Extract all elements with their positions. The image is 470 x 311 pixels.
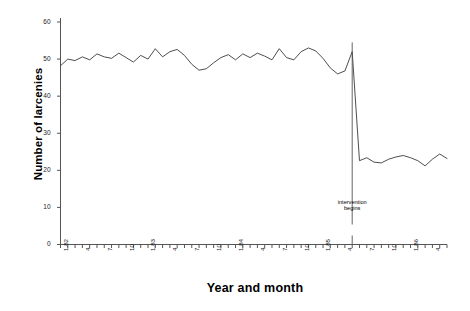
x-tick-label: 1.86: [413, 238, 419, 250]
x-tick-label: 10: [216, 244, 222, 251]
intervention-annotation: intervention begins: [312, 199, 392, 213]
x-axis-title: Year and month: [60, 281, 450, 295]
x-tick-label: 4: [347, 247, 353, 250]
plot-area: [0, 0, 470, 311]
x-tick-label: 10: [391, 244, 397, 251]
y-tick-label: 20: [25, 167, 51, 174]
x-tick-label: 7: [369, 247, 375, 250]
data-series: [61, 48, 448, 166]
intervention-label-line1: intervention: [312, 199, 392, 206]
x-tick-label: 7: [194, 247, 200, 250]
x-tick-label: 1.82: [63, 238, 69, 250]
axes: [57, 18, 447, 248]
chart-figure: Number of larcenies Year and month 01020…: [0, 0, 470, 311]
x-tick-label: 4: [172, 247, 178, 250]
x-tick-label: 4: [260, 247, 266, 250]
x-tick-label: 7: [107, 247, 113, 250]
x-tick-label: 1.85: [325, 238, 331, 250]
intervention-label-line2: begins: [312, 205, 392, 212]
y-tick-label: 40: [25, 93, 51, 100]
y-tick-label: 0: [25, 241, 51, 248]
y-tick-label: 50: [25, 56, 51, 63]
x-tick-label: 1.84: [238, 238, 244, 250]
y-tick-label: 30: [25, 130, 51, 137]
x-tick-label: 1.83: [150, 238, 156, 250]
y-axis-title: Number of larcenies: [32, 24, 44, 224]
x-tick-label: 10: [304, 244, 310, 251]
x-tick-label: 10: [129, 244, 135, 251]
x-tick-label: 4: [85, 247, 91, 250]
x-tick-label: 7: [282, 247, 288, 250]
y-tick-label: 10: [25, 204, 51, 211]
x-tick-label: 4: [435, 247, 441, 250]
y-tick-label: 60: [25, 19, 51, 26]
